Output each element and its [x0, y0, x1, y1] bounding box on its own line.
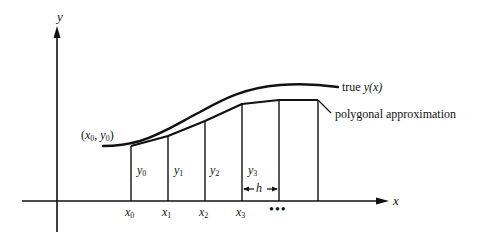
abscissa-label-x1: x1 — [162, 206, 171, 220]
abscissa-label-x3: x3 — [236, 206, 245, 220]
continuation-dots: ••• — [269, 203, 287, 217]
ordinate-label-y1: y1 — [174, 164, 183, 178]
ordinate-lines — [131, 100, 318, 201]
abscissa-label-x2: x2 — [199, 206, 208, 220]
arrow-left-icon — [243, 187, 249, 192]
x-axis-label: x — [393, 194, 399, 207]
true-curve — [103, 84, 338, 146]
abscissa-label-x0: x0 — [125, 206, 134, 220]
step-h-label: h — [256, 182, 262, 194]
start-point-label: (x0, y0) — [81, 129, 114, 143]
y-axis-arrow-icon — [54, 26, 61, 38]
y-axis-label: y — [57, 10, 63, 23]
ordinate-label-y2: y2 — [210, 164, 219, 178]
ordinate-label-y3: y3 — [248, 164, 257, 178]
true-curve-label: true y(x) — [342, 81, 382, 93]
arrow-right-icon — [272, 187, 278, 192]
polygon-label: polygonal approximation — [335, 108, 456, 120]
polygonal-approximation — [131, 100, 318, 146]
ordinate-label-y0: y0 — [137, 164, 146, 178]
diagram-canvas: y x (x0, y0) y0 y1 y2 y3 h x0 x1 x2 x3 •… — [0, 0, 493, 237]
x-axis-arrow-icon — [376, 198, 389, 205]
polygon-leader-line — [318, 100, 331, 113]
